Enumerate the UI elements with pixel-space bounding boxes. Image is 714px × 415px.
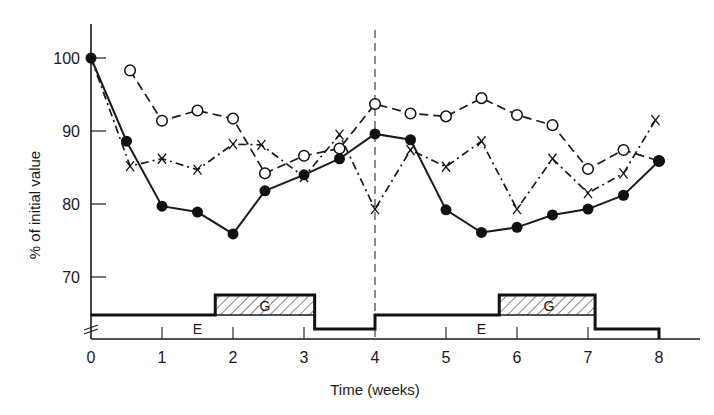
filled-circle-marker xyxy=(121,136,132,147)
open-circle-marker xyxy=(583,164,594,175)
x-tick-label: 5 xyxy=(442,349,451,366)
x-marker xyxy=(336,130,344,140)
open-circle-marker xyxy=(192,105,203,116)
open-circle-marker xyxy=(476,93,487,104)
filled-circle-marker xyxy=(259,185,270,196)
label-e: E xyxy=(193,321,202,337)
open-circle-marker xyxy=(228,113,239,124)
filled-circle-marker xyxy=(583,204,594,215)
x-tick-label: 7 xyxy=(584,349,593,366)
x-axis-label: Time (weeks) xyxy=(330,381,419,398)
x-marker xyxy=(442,162,450,172)
x-marker xyxy=(478,136,486,146)
y-axis-label: % of initial value xyxy=(26,151,43,259)
x-tick-label: 2 xyxy=(229,349,238,366)
filled-circle-marker xyxy=(618,190,629,201)
x-tick-label: 4 xyxy=(371,349,380,366)
open-circle-marker xyxy=(370,99,381,110)
open-circle-marker xyxy=(512,110,523,121)
series-line xyxy=(130,70,659,173)
open-circle-marker xyxy=(441,111,452,122)
y-ticks: 708090100 xyxy=(53,50,106,286)
x-marker xyxy=(549,154,557,164)
filled-circle-marker xyxy=(86,53,97,64)
x-marker xyxy=(126,161,134,171)
x-tick-label: 0 xyxy=(87,349,96,366)
y-tick-label: 80 xyxy=(62,196,80,213)
open-circle-marker xyxy=(405,108,416,119)
line-chart: 708090100 012345678 Time (weeks) % of in… xyxy=(0,0,714,415)
x-marker xyxy=(229,139,237,149)
series-filled-circles xyxy=(86,53,665,240)
label-g: G xyxy=(544,298,555,314)
x-marker xyxy=(584,188,592,198)
open-circle-marker xyxy=(260,168,271,179)
y-tick-label: 90 xyxy=(62,123,80,140)
filled-circle-marker xyxy=(192,207,203,218)
filled-circle-marker xyxy=(157,201,168,212)
filled-circle-marker xyxy=(512,222,523,233)
x-marker xyxy=(513,204,521,214)
data-series xyxy=(86,53,665,240)
filled-circle-marker xyxy=(547,209,558,220)
x-tick-label: 3 xyxy=(300,349,309,366)
label-e: E xyxy=(477,321,486,337)
filled-circle-marker xyxy=(228,228,239,239)
series-open-circles xyxy=(125,65,665,179)
x-tick-label: 8 xyxy=(655,349,664,366)
open-circle-marker xyxy=(334,143,345,154)
filled-circle-marker xyxy=(299,169,310,180)
filled-circle-marker xyxy=(370,128,381,139)
filled-circle-marker xyxy=(334,153,345,164)
filled-circle-marker xyxy=(405,134,416,145)
x-marker xyxy=(620,168,628,178)
open-circle-marker xyxy=(125,65,136,76)
open-circle-marker xyxy=(157,115,168,126)
x-tick-label: 1 xyxy=(158,349,167,366)
open-circle-marker xyxy=(299,151,310,162)
x-marker xyxy=(651,115,659,125)
filled-circle-marker xyxy=(441,204,452,215)
open-circle-marker xyxy=(618,145,629,156)
label-g: G xyxy=(260,298,271,314)
filled-circle-marker xyxy=(476,227,487,238)
filled-circle-marker xyxy=(654,155,665,166)
y-tick-label: 100 xyxy=(53,50,80,67)
x-tick-label: 6 xyxy=(513,349,522,366)
open-circle-marker xyxy=(547,120,558,131)
y-tick-label: 70 xyxy=(62,269,80,286)
